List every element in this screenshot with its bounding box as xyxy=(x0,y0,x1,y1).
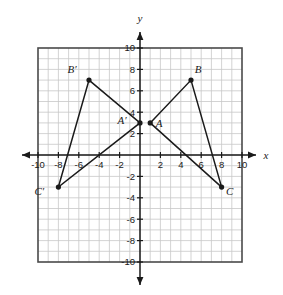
x-axis-label: x xyxy=(263,149,269,161)
vertex-point xyxy=(137,120,142,125)
y-tick-label: 6 xyxy=(130,85,135,96)
vertex-label: B xyxy=(195,63,202,75)
coordinate-plane: -10-8-6-4-2246810108642-2-4-6-8-10 ABCA′… xyxy=(0,0,283,295)
x-tick-label: 10 xyxy=(237,159,248,170)
vertex-point xyxy=(188,78,193,83)
x-tick-label: 4 xyxy=(178,159,183,170)
x-tick-label: -10 xyxy=(31,159,45,170)
figure-container: -10-8-6-4-2246810108642-2-4-6-8-10 ABCA′… xyxy=(0,0,283,295)
x-tick-label: 2 xyxy=(158,159,163,170)
y-tick-label: 10 xyxy=(124,42,135,53)
vertex-label: A′ xyxy=(116,114,127,126)
vertex-label: C xyxy=(226,185,234,197)
x-tick-label: 8 xyxy=(219,159,224,170)
y-tick-label: -6 xyxy=(127,214,135,225)
y-tick-label: -10 xyxy=(121,256,135,267)
vertex-point xyxy=(86,78,91,83)
vertex-point xyxy=(56,185,61,190)
x-tick-label: -4 xyxy=(95,159,103,170)
y-tick-label: -4 xyxy=(127,192,135,203)
y-tick-label: -2 xyxy=(127,171,135,182)
y-axis-label: y xyxy=(137,12,143,24)
vertex-point xyxy=(148,120,153,125)
x-tick-label: -8 xyxy=(54,159,62,170)
vertex-point xyxy=(219,185,224,190)
x-tick-label: -2 xyxy=(115,159,123,170)
y-tick-label: -8 xyxy=(127,235,135,246)
vertex-label: B′ xyxy=(67,63,77,75)
vertex-label: C′ xyxy=(35,185,45,197)
vertex-label: A xyxy=(155,117,163,129)
y-tick-label: 8 xyxy=(130,64,135,75)
